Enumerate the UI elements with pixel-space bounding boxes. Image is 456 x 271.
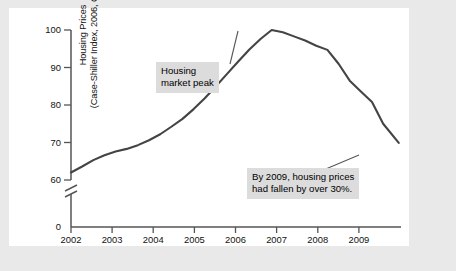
- y-tick-label-100: 100: [35, 24, 61, 35]
- x-tick-label-2007: 2007: [259, 234, 295, 245]
- x-tick-label-2002: 2002: [53, 234, 89, 245]
- y-axis-title-line-2: (Case-Shiller Index, 2006, Q2 = 100): [89, 0, 101, 108]
- x-tick-label-2009: 2009: [341, 234, 377, 245]
- y-tick-label-70: 70: [35, 137, 61, 148]
- y-tick-label-90: 90: [35, 62, 61, 73]
- y-axis-title: Housing Prices (Case-Shiller Index, 2006…: [76, 0, 102, 123]
- y-axis-origin-label: 0: [35, 221, 61, 232]
- chart-panel: Housing Prices (Case-Shiller Index, 2006…: [9, 8, 409, 246]
- screenshot-root: Housing Prices (Case-Shiller Index, 2006…: [0, 0, 456, 271]
- annotation-price-decline: By 2009, housing prices had fallen by ov…: [247, 168, 359, 199]
- x-tick-label-2004: 2004: [135, 234, 171, 245]
- x-tick-label-2008: 2008: [300, 234, 336, 245]
- housing-prices-line-chart: [9, 8, 409, 246]
- y-axis-title-line-1: Housing Prices: [78, 5, 90, 65]
- x-tick-label-2005: 2005: [176, 234, 212, 245]
- y-tick-label-60: 60: [35, 174, 61, 185]
- plot-background: [9, 8, 409, 246]
- annotation-housing-market-peak: Housing market peak: [156, 62, 219, 93]
- x-tick-label-2006: 2006: [218, 234, 254, 245]
- x-tick-label-2003: 2003: [94, 234, 130, 245]
- y-tick-label-80: 80: [35, 99, 61, 110]
